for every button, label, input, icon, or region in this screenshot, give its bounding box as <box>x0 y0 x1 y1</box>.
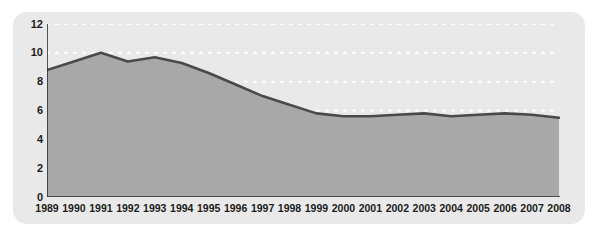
x-axis-tick-label: 2008 <box>541 201 577 215</box>
plot-area <box>47 24 560 197</box>
y-axis-tick-label: 4 <box>17 134 43 145</box>
y-axis-tick-label: 12 <box>17 19 43 30</box>
y-axis-tick-label: 8 <box>17 76 43 87</box>
chart-svg <box>47 24 560 197</box>
y-axis: 024681012 <box>13 0 43 234</box>
chart-container: 024681012 198919901991199219931994199519… <box>0 0 599 234</box>
y-axis-tick-label: 2 <box>17 163 43 174</box>
x-axis: 1989199019911992199319941995199619971998… <box>47 201 560 219</box>
y-axis-tick-label: 10 <box>17 47 43 58</box>
area-fill-path <box>47 53 559 197</box>
y-axis-tick-label: 6 <box>17 105 43 116</box>
